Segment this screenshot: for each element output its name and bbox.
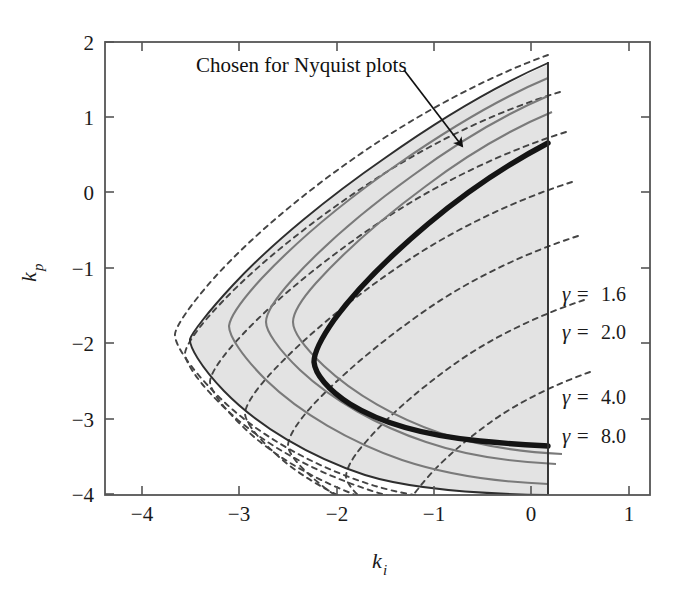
y-axis-title-subscript: p [30, 263, 46, 272]
contour-label-symbol: γ = [562, 385, 590, 409]
y-axis-title: k p [16, 263, 46, 282]
contour-label-value: 1.6 [601, 283, 626, 305]
y-tick-label: 1 [84, 106, 95, 130]
y-tick-label: −1 [72, 257, 94, 281]
contour-label-value: 8.0 [601, 425, 626, 447]
x-tick-label: 0 [526, 502, 537, 526]
y-tick-label: 2 [84, 31, 95, 55]
contour-label-symbol: γ = [562, 320, 590, 344]
x-axis-title: k i [372, 548, 387, 578]
x-tick-label: −3 [228, 502, 250, 526]
contour-label-symbol: γ = [562, 282, 590, 306]
x-tick-labels: −4 −3 −2 −1 0 1 [131, 502, 634, 526]
y-tick-label: −3 [72, 408, 94, 432]
y-tick-label: −2 [72, 332, 94, 356]
x-tick-label: −2 [326, 502, 348, 526]
y-tick-label: −4 [72, 483, 95, 507]
annotation-label: Chosen for Nyquist plots [196, 53, 407, 77]
y-tick-label: 0 [84, 181, 95, 205]
x-tick-label: −4 [131, 502, 154, 526]
x-axis-title-subscript: i [383, 562, 387, 578]
x-tick-label: 1 [624, 502, 635, 526]
contour-label-value: 2.0 [601, 321, 626, 343]
y-axis-title-symbol: k [16, 271, 41, 282]
y-tick-labels: 2 1 0 −1 −2 −3 −4 [72, 31, 95, 507]
figure-container: Chosen for Nyquist plots −4 −3 −2 −1 0 1 [0, 0, 686, 610]
nyquist-stabilizing-region-chart: Chosen for Nyquist plots −4 −3 −2 −1 0 1 [0, 0, 686, 610]
contour-label-value: 4.0 [601, 386, 626, 408]
x-axis-title-symbol: k [372, 548, 383, 573]
contour-label-symbol: γ = [562, 424, 590, 448]
x-tick-label: −1 [423, 502, 445, 526]
